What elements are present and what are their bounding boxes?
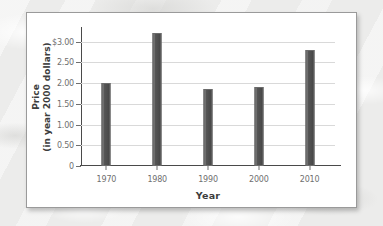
plot-area: 00.501.001.502.002.50$3.00 1970198019902… <box>81 27 335 166</box>
x-axis-tick-label: 1980 <box>147 175 167 184</box>
bar <box>153 33 162 166</box>
y-axis-tick-label: 2.50 <box>57 58 74 67</box>
y-axis-tick-label: 0 <box>69 162 74 171</box>
y-axis-tick <box>76 125 81 126</box>
gridline <box>81 42 335 43</box>
gridline <box>81 62 335 63</box>
y-axis-title-line2: (in year 2000 dollars) <box>42 42 53 151</box>
gridline <box>81 83 335 84</box>
y-axis-tick-label: 2.00 <box>57 79 74 88</box>
y-axis-tick-label: 1.00 <box>57 120 74 129</box>
x-axis-tick-label: 2010 <box>300 175 320 184</box>
bar <box>305 50 314 166</box>
bar <box>254 87 263 166</box>
y-axis-tick-label: $3.00 <box>52 37 74 46</box>
chart-figure-panel: Price (in year 2000 dollars) 00.501.001.… <box>26 12 357 208</box>
x-axis-tick-label: 1990 <box>198 175 218 184</box>
x-axis-tick <box>106 166 107 170</box>
x-axis-tick <box>208 166 209 170</box>
y-axis-tick-label: 0.50 <box>57 141 74 150</box>
x-axis-tick <box>309 166 310 170</box>
bar <box>204 89 213 166</box>
x-axis-tick <box>157 166 158 170</box>
y-axis-tick <box>76 42 81 43</box>
x-axis-title: Year <box>81 190 335 201</box>
y-axis-tick <box>76 104 81 105</box>
y-axis-tick <box>76 145 81 146</box>
y-axis-title-line1: Price <box>31 42 42 151</box>
x-axis-tick-label: 2000 <box>249 175 269 184</box>
x-axis-tick <box>258 166 259 170</box>
y-axis-title: Price (in year 2000 dollars) <box>29 27 55 166</box>
x-axis-tick-label: 1970 <box>97 175 117 184</box>
bar <box>102 83 111 166</box>
y-axis-tick-label: 1.50 <box>57 99 74 108</box>
y-axis-tick <box>76 166 81 167</box>
y-axis-tick <box>76 83 81 84</box>
y-axis-tick <box>76 62 81 63</box>
